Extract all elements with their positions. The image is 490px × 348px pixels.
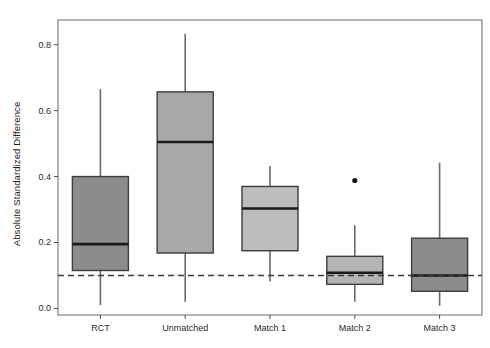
y-tick-label: 0.0: [38, 303, 51, 313]
box-body: [327, 256, 383, 284]
y-tick-label: 0.8: [38, 40, 51, 50]
y-tick-label: 0.2: [38, 237, 51, 247]
y-tick-label: 0.4: [38, 172, 51, 182]
x-tick-label-match-3: Match 3: [424, 323, 456, 333]
box-body: [412, 238, 468, 291]
x-tick-label-match-2: Match 2: [339, 323, 371, 333]
box-body: [242, 186, 298, 250]
box-body: [157, 92, 213, 253]
boxplot-figure: Absolute Standardized Difference 0.00.20…: [0, 0, 490, 348]
x-tick-label-match-1: Match 1: [254, 323, 286, 333]
x-tick-label-unmatched: Unmatched: [162, 323, 208, 333]
x-tick-label-rct: RCT: [91, 323, 110, 333]
box-body: [72, 177, 128, 271]
y-tick-label: 0.6: [38, 106, 51, 116]
outlier-point: [352, 178, 357, 183]
boxplot-canvas: [0, 0, 490, 348]
